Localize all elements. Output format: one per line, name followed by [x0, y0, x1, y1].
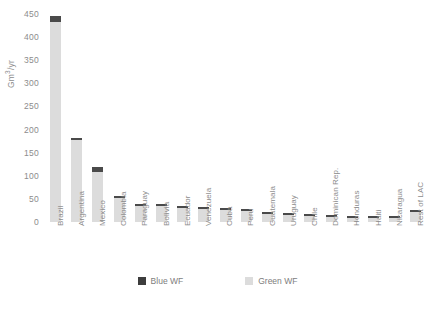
bar-slot	[215, 14, 236, 222]
bar-slot	[363, 14, 384, 222]
y-axis-tick-label: 100	[24, 171, 39, 181]
bar-slot	[151, 14, 172, 222]
bar-slot	[172, 14, 193, 222]
x-axis-tick-label: Rest of LAC	[416, 182, 425, 226]
y-axis-tick-label: 0	[34, 217, 39, 227]
x-axis-tick-label-slot: Cuba	[215, 224, 236, 266]
x-axis-tick-label-slot: Venezuela	[193, 224, 214, 266]
bar-slot	[278, 14, 299, 222]
x-axis-tick-label: Venezuela	[204, 188, 213, 226]
x-axis-tick-label-slot: Guatemala	[257, 224, 278, 266]
x-axis-tick-label-slot: Honduras	[342, 224, 363, 266]
x-axis-tick-label: Cuba	[225, 206, 234, 226]
x-axis-tick-labels: BrazilArgentinaMexicoColombiaParaguayBol…	[45, 224, 430, 266]
x-axis-tick-label: Uruguay	[289, 195, 298, 226]
x-axis-tick-label: Dominican Rep.	[331, 168, 340, 226]
y-axis-tick-label: 450	[24, 9, 39, 19]
x-axis-tick-label: Peru	[246, 209, 255, 226]
y-axis-title: Gm3/yr	[4, 60, 16, 88]
x-axis-tick-label: Ecuador	[183, 196, 192, 227]
y-axis: 450400350300250200150100500	[0, 0, 45, 222]
y-axis-tick-label: 50	[29, 194, 39, 204]
x-axis-tick-label-slot: Peru	[236, 224, 257, 266]
y-axis-tick-label: 400	[24, 32, 39, 42]
chart-legend: Blue WFGreen WF	[0, 276, 435, 286]
bar-slot	[299, 14, 320, 222]
bar-segment-green-wf	[50, 22, 61, 222]
legend-item[interactable]: Green WF	[245, 276, 297, 286]
legend-swatch-green	[245, 277, 253, 285]
y-axis-tick-label: 150	[24, 148, 39, 158]
bar-slot	[236, 14, 257, 222]
x-axis-tick-label-slot: Paraguay	[130, 224, 151, 266]
x-axis-tick-label-slot: Chile	[299, 224, 320, 266]
bar-group	[45, 14, 430, 222]
x-axis-tick-label: Haiti	[374, 209, 383, 226]
y-axis-tick-label: 200	[24, 125, 39, 135]
y-axis-tick-label: 250	[24, 101, 39, 111]
y-axis-tick-label: 300	[24, 78, 39, 88]
stacked-bar[interactable]	[50, 16, 61, 222]
x-axis-tick-label: Colombia	[119, 191, 128, 226]
x-axis-tick-label-slot: Mexico	[87, 224, 108, 266]
legend-item[interactable]: Blue WF	[138, 276, 184, 286]
x-axis-tick-label: Argentina	[77, 191, 86, 226]
y-axis-tick-label: 350	[24, 55, 39, 65]
x-axis-tick-label-slot: Bolivia	[151, 224, 172, 266]
x-axis-tick-label: Mexico	[98, 200, 107, 226]
x-axis-tick-label-slot: Rest of LAC	[405, 224, 426, 266]
x-axis-tick-label-slot: Brazil	[45, 224, 66, 266]
legend-label: Green WF	[258, 276, 297, 286]
x-axis-tick-label-slot: Ecuador	[172, 224, 193, 266]
x-axis-tick-label-slot: Haiti	[363, 224, 384, 266]
x-axis-tick-label-slot: Dominican Rep.	[321, 224, 342, 266]
bar-slot	[87, 14, 108, 222]
x-axis-tick-label-slot: Nicaragua	[384, 224, 405, 266]
x-axis-tick-label: Brazil	[56, 205, 65, 226]
plot-area	[45, 14, 430, 222]
legend-label: Blue WF	[151, 276, 184, 286]
x-axis-tick-label: Chile	[310, 207, 319, 226]
x-axis-tick-label: Nicaragua	[395, 189, 404, 226]
x-axis-tick-label-slot: Uruguay	[278, 224, 299, 266]
chart-figure: 450400350300250200150100500 Gm3/yr Brazi…	[0, 0, 435, 314]
x-axis-tick-label: Bolivia	[162, 202, 171, 226]
x-axis-tick-label: Paraguay	[140, 191, 149, 226]
x-axis-tick-label-slot: Colombia	[109, 224, 130, 266]
x-axis-tick-label-slot: Argentina	[66, 224, 87, 266]
x-axis-tick-label: Guatemala	[268, 186, 277, 226]
legend-swatch-blue	[138, 277, 146, 285]
bar-slot	[45, 14, 66, 222]
x-axis-tick-label: Honduras	[352, 191, 361, 227]
